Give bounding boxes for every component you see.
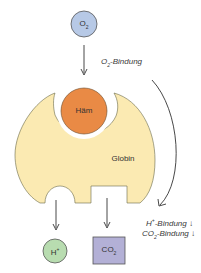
- o2-label: O2: [74, 19, 94, 30]
- haem-label: Häm: [69, 106, 99, 115]
- h-plus-label: H+: [45, 246, 65, 257]
- co2-label: CO2: [93, 245, 125, 256]
- curved-arrow: [152, 80, 176, 205]
- globin-label: Globin: [108, 154, 138, 163]
- co2-binding-label: CO2-Bindung ↓: [142, 229, 195, 240]
- o2-binding-label: O2-Bindung: [101, 57, 142, 68]
- h-binding-label: H+-Bindung ↓: [146, 217, 193, 228]
